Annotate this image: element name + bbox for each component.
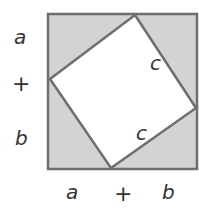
label-bottom-plus: + — [114, 181, 132, 206]
label-c-upper: c — [150, 51, 161, 75]
pythagorean-diagram: a + b a + b c c — [0, 0, 199, 212]
label-bottom-b: b — [162, 180, 175, 204]
label-bottom-a: a — [66, 180, 78, 204]
label-c-lower: c — [136, 121, 147, 145]
label-left-a: a — [14, 25, 26, 49]
label-left-b: b — [15, 126, 28, 150]
label-left-plus: + — [12, 71, 30, 96]
